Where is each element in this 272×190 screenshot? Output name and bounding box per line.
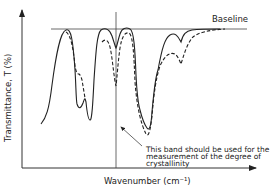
y-axis-label: Transmittance, T (%) [3, 54, 13, 143]
x-axis-label: Wavenumber (cm⁻¹) [104, 176, 191, 186]
solid-spectrum-curve [41, 28, 220, 129]
annotation-arrow [121, 127, 142, 146]
dashed-spectrum-curve [66, 29, 225, 135]
baseline-label: Baseline [212, 14, 248, 24]
annotation-text-line3: crystallinity [146, 159, 190, 168]
ir-spectrum-chart: Baseline This band should be used for th… [0, 0, 272, 190]
